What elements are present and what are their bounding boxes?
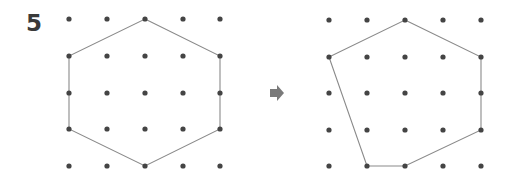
grid-before: [66, 16, 222, 168]
grid-dot: [217, 163, 222, 168]
grid-dot: [478, 90, 483, 95]
grid-dot: [66, 126, 71, 131]
grid-dot: [142, 16, 147, 21]
grid-dot: [440, 54, 445, 59]
grid-dot: [326, 127, 331, 132]
grid-dot: [440, 163, 445, 168]
dot-grid-diagram: [0, 0, 513, 176]
grid-dot: [217, 126, 222, 131]
right-arrow-icon: [270, 85, 284, 101]
grid-dot: [326, 163, 331, 168]
grid-dot: [180, 163, 185, 168]
grid-dot: [104, 16, 109, 21]
grid-dot: [180, 90, 185, 95]
grid-dot: [326, 90, 331, 95]
grid-dot: [364, 163, 369, 168]
grid-dot: [217, 16, 222, 21]
grid-dot: [180, 16, 185, 21]
grid-dot: [66, 53, 71, 58]
grid-dot: [217, 90, 222, 95]
grid-dot: [478, 54, 483, 59]
grid-dot: [142, 163, 147, 168]
grid-dot: [478, 127, 483, 132]
grid-dot: [440, 90, 445, 95]
grid-dot: [478, 17, 483, 22]
grid-dot: [364, 17, 369, 22]
grid-dot: [440, 127, 445, 132]
grid-dot: [364, 54, 369, 59]
grid-dot: [180, 126, 185, 131]
grid-dot: [104, 90, 109, 95]
grid-dot: [402, 127, 407, 132]
grid-dot: [180, 53, 185, 58]
grid-dot: [326, 54, 331, 59]
grid-dot: [142, 53, 147, 58]
grid-dot: [66, 90, 71, 95]
grid-dot: [402, 17, 407, 22]
grid-dot: [104, 163, 109, 168]
grid-dot: [142, 126, 147, 131]
grid-dot: [402, 54, 407, 59]
grid-dot: [402, 163, 407, 168]
grid-dot: [402, 90, 407, 95]
grid-dot: [478, 163, 483, 168]
grid-dot: [440, 17, 445, 22]
grid-dot: [142, 90, 147, 95]
grid-after: [326, 17, 483, 168]
grid-dot: [104, 126, 109, 131]
grid-dot: [364, 127, 369, 132]
grid-dot: [326, 17, 331, 22]
grid-dot: [217, 53, 222, 58]
grid-dot: [66, 163, 71, 168]
grid-dot: [104, 53, 109, 58]
grid-dot: [66, 16, 71, 21]
grid-dot: [364, 90, 369, 95]
